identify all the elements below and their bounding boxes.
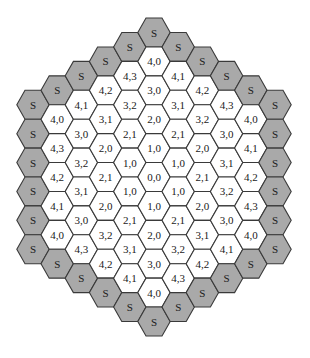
hex-label: S — [224, 272, 230, 284]
hex-label: 2,1 — [123, 214, 137, 226]
hex-label: 2,0 — [196, 200, 210, 212]
hex-label: 4,1 — [171, 70, 185, 82]
hex-label: 4,0 — [244, 229, 258, 241]
hex-label: 3,0 — [75, 128, 89, 140]
hex-label: 3,1 — [99, 113, 113, 125]
hex-label: S — [175, 301, 181, 313]
hex-label: 1,0 — [123, 185, 137, 197]
hex-label: 4,3 — [75, 243, 89, 255]
hex-label: 3,1 — [123, 243, 137, 255]
hex-label: 3,1 — [75, 185, 89, 197]
hex-label: S — [127, 301, 133, 313]
hex-label: S — [151, 27, 157, 39]
hex-label: S — [78, 272, 84, 284]
hex-label: 4,1 — [75, 99, 89, 111]
hex-label: 4,2 — [244, 171, 258, 183]
hex-label: 1,0 — [147, 142, 161, 154]
hex-label: 4,2 — [196, 258, 210, 270]
hex-label: S — [272, 214, 278, 226]
hex-label: 3,0 — [220, 214, 234, 226]
hex-label: 3,0 — [75, 214, 89, 226]
hex-label: S — [199, 287, 205, 299]
hex-label: S — [272, 128, 278, 140]
hex-label: S — [54, 84, 60, 96]
hex-label: 2,0 — [196, 142, 210, 154]
hex-label: 4,3 — [244, 200, 258, 212]
hex-label: 1,0 — [171, 157, 185, 169]
hex-label: 3,1 — [171, 99, 185, 111]
hex-label: S — [30, 157, 36, 169]
hex-label: S — [30, 214, 36, 226]
hex-label: S — [272, 243, 278, 255]
hex-label: S — [272, 157, 278, 169]
hex-label: S — [54, 258, 60, 270]
hex-label: 3,0 — [147, 84, 161, 96]
hex-label: 2,1 — [99, 171, 113, 183]
hex-label: S — [248, 258, 254, 270]
hex-label: 3,2 — [99, 229, 113, 241]
hex-label: S — [30, 243, 36, 255]
hex-label: 4,0 — [147, 287, 161, 299]
hex-label: S — [127, 41, 133, 53]
hex-label: 4,3 — [220, 99, 234, 111]
hex-label: 2,0 — [147, 229, 161, 241]
hex-label: S — [272, 185, 278, 197]
hex-label: 3,1 — [220, 157, 234, 169]
hex-label: 2,1 — [171, 128, 185, 140]
hex-label: 4,2 — [99, 258, 113, 270]
hex-grid-diagram: SSSSSSS4,04,34,24,14,0SS4,13,03,23,13,04… — [0, 0, 310, 358]
hex-label: 1,0 — [171, 185, 185, 197]
hex-label: S — [30, 99, 36, 111]
hex-label: 3,2 — [196, 113, 210, 125]
hex-label: 1,0 — [123, 157, 137, 169]
hex-label: S — [103, 287, 109, 299]
hex-label: S — [30, 128, 36, 140]
hex-label: 4,0 — [50, 113, 64, 125]
hex-label: S — [103, 55, 109, 67]
hex-label: S — [151, 316, 157, 328]
hex-label: 4,1 — [123, 272, 137, 284]
hex-label: 4,0 — [50, 229, 64, 241]
hex-label: 2,1 — [171, 214, 185, 226]
hex-label: S — [248, 84, 254, 96]
hex-label: 2,1 — [123, 128, 137, 140]
hex-label: 3,2 — [75, 157, 89, 169]
hex-label: 4,3 — [50, 142, 64, 154]
hex-label: 4,3 — [123, 70, 137, 82]
hex-label: 0,0 — [147, 171, 161, 183]
hex-label: S — [224, 70, 230, 82]
hex-label: 4,1 — [50, 200, 64, 212]
hex-label: 1,0 — [147, 200, 161, 212]
hex-label: 4,1 — [244, 142, 258, 154]
hex-label: 2,0 — [99, 142, 113, 154]
hex-label: 4,2 — [99, 84, 113, 96]
hex-label: S — [30, 185, 36, 197]
hex-label: 4,0 — [244, 113, 258, 125]
hex-label: 2,0 — [99, 200, 113, 212]
hex-label: S — [78, 70, 84, 82]
hex-label: S — [272, 99, 278, 111]
hex-label: 3,2 — [171, 243, 185, 255]
hex-label: S — [175, 41, 181, 53]
hex-label: 2,1 — [196, 171, 210, 183]
hex-label: 3,0 — [220, 128, 234, 140]
hex-label: 4,2 — [196, 84, 210, 96]
hex-label: 4,2 — [50, 171, 64, 183]
hex-label: 2,0 — [147, 113, 161, 125]
hex-label: 4,3 — [171, 272, 185, 284]
hex-label: 3,2 — [220, 185, 234, 197]
hex-label: 3,0 — [147, 258, 161, 270]
hex-label: 4,0 — [147, 55, 161, 67]
hex-label: 3,1 — [196, 229, 210, 241]
hex-label: S — [199, 55, 205, 67]
hex-label: 3,2 — [123, 99, 137, 111]
hex-label: 4,1 — [220, 243, 234, 255]
